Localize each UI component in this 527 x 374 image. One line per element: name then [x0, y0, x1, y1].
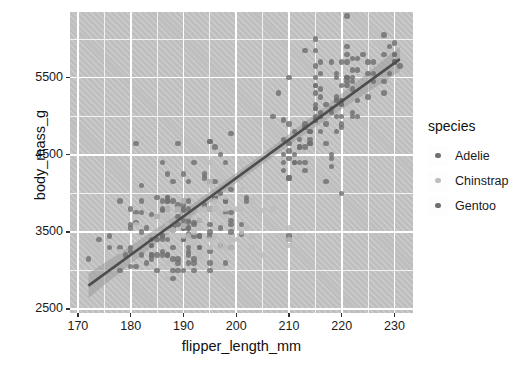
legend-key-swatch: [428, 171, 448, 191]
legend-key-swatch: [428, 196, 448, 216]
legend-dot-icon: [435, 153, 440, 158]
x-tick-mark: [183, 313, 184, 317]
legend-dot-icon: [435, 203, 440, 208]
scatter-plot-figure: 170180190200210220230 2500350045005500 f…: [0, 0, 527, 374]
y-axis-title: body_mass_g: [32, 35, 48, 275]
legend: species AdelieChinstrapGentoo: [428, 118, 527, 218]
x-tick-mark: [288, 313, 289, 317]
y-tick-mark: [66, 154, 70, 155]
x-tick-label: 170: [56, 319, 100, 333]
x-tick-label: 220: [320, 319, 364, 333]
legend-item-gentoo[interactable]: Gentoo: [428, 193, 527, 218]
x-tick-label: 230: [373, 319, 417, 333]
x-axis-title: flipper_length_mm: [70, 338, 413, 354]
x-tick-mark: [394, 313, 395, 317]
y-tick-mark: [66, 77, 70, 78]
legend-item-chinstrap[interactable]: Chinstrap: [428, 168, 527, 193]
legend-title: species: [428, 118, 527, 134]
regression-line: [70, 12, 413, 313]
x-tick-label: 210: [267, 319, 311, 333]
x-tick-mark: [341, 313, 342, 317]
y-axis-title-wrap: body_mass_g: [0, 0, 66, 313]
x-tick-mark: [130, 313, 131, 317]
legend-item-label: Adelie: [455, 149, 490, 163]
x-tick-label: 200: [214, 319, 258, 333]
regression-line-path: [88, 59, 399, 286]
x-tick-mark: [77, 313, 78, 317]
legend-item-label: Chinstrap: [455, 174, 509, 188]
y-tick-mark: [66, 231, 70, 232]
legend-items: AdelieChinstrapGentoo: [428, 143, 527, 218]
x-tick-label: 180: [109, 319, 153, 333]
x-tick-label: 190: [161, 319, 205, 333]
x-tick-mark: [236, 313, 237, 317]
plot-panel: [70, 12, 413, 313]
legend-dot-icon: [435, 178, 440, 183]
legend-key-swatch: [428, 146, 448, 166]
legend-item-adelie[interactable]: Adelie: [428, 143, 527, 168]
y-tick-mark: [66, 308, 70, 309]
legend-item-label: Gentoo: [455, 199, 496, 213]
